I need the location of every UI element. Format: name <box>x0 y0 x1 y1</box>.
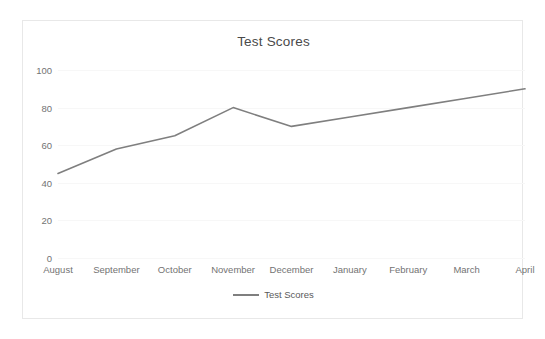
y-tick-label: 40 <box>41 177 52 188</box>
x-axis: AugustSeptemberOctoberNovemberDecemberJa… <box>58 264 525 280</box>
y-tick-label: 20 <box>41 215 52 226</box>
x-tick-label: October <box>158 264 192 275</box>
x-tick-label: September <box>93 264 139 275</box>
y-tick-label: 60 <box>41 140 52 151</box>
legend-label: Test Scores <box>264 289 314 300</box>
x-tick-label: December <box>270 264 314 275</box>
x-tick-label: November <box>211 264 255 275</box>
y-tick-label: 80 <box>41 102 52 113</box>
y-tick-label: 0 <box>47 253 52 264</box>
legend-line-swatch <box>233 294 259 296</box>
x-tick-label: August <box>43 264 73 275</box>
plot-area <box>58 70 525 258</box>
x-tick-label: April <box>515 264 534 275</box>
y-tick-label: 100 <box>36 65 52 76</box>
chart-title: Test Scores <box>23 34 524 49</box>
x-tick-label: March <box>453 264 479 275</box>
gridline <box>58 258 525 259</box>
line-series-test-scores <box>58 70 525 258</box>
x-tick-label: January <box>333 264 367 275</box>
series-polyline <box>58 89 525 174</box>
x-tick-label: February <box>389 264 427 275</box>
chart-legend: Test Scores <box>23 289 524 300</box>
chart-container: Test Scores 020406080100 AugustSeptember… <box>22 20 523 319</box>
